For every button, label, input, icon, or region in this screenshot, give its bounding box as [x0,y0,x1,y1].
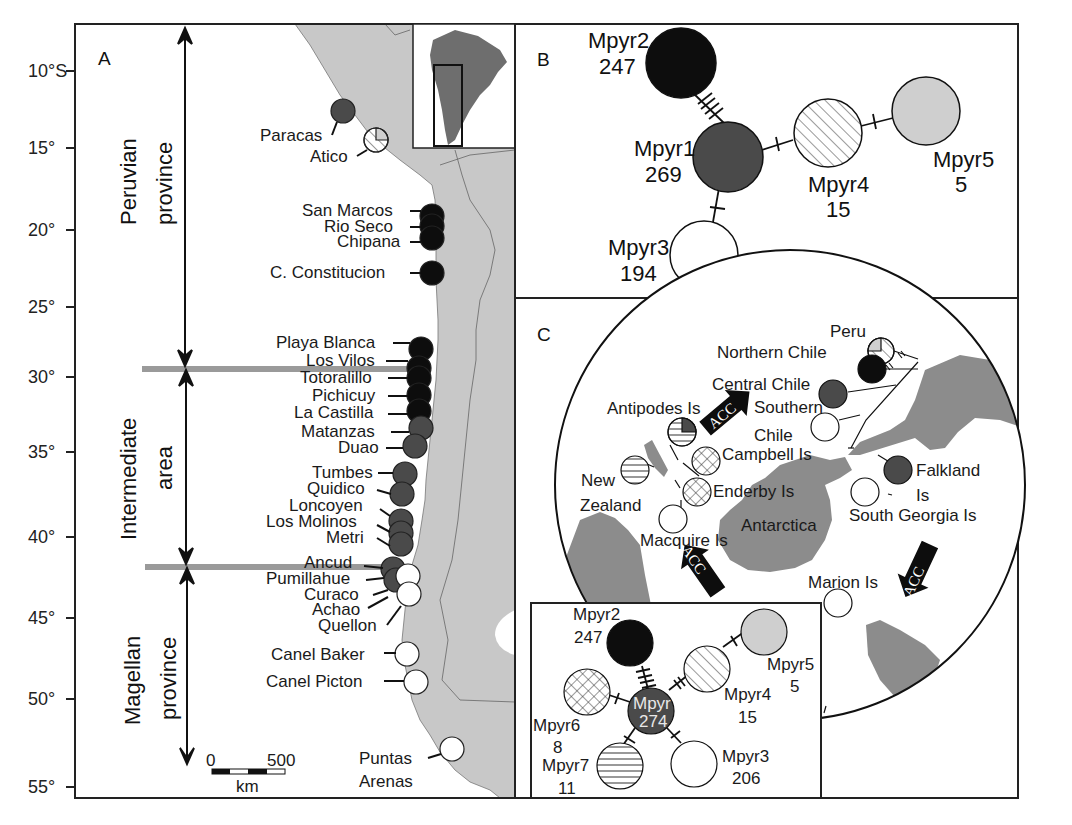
label-falkland-is: Is [916,486,929,505]
inset-mpyr5-name: Mpyr5 [767,655,814,674]
svg-text:Intermediate: Intermediate [116,418,141,540]
mpyr4-name: Mpyr4 [808,172,869,197]
scale-start: 0 [206,751,215,770]
panel-a-label: A [98,48,111,69]
label-new: New [581,471,616,490]
mpyr5-name: Mpyr5 [933,147,994,172]
tick-35: 35° [28,442,55,462]
tick-45: 45° [28,608,55,628]
site-atico: Atico [310,147,348,166]
tick-15: 15° [28,138,55,158]
mpyr5-count: 5 [955,172,967,197]
haplotype-mpyr2-node [646,28,716,98]
mpyr2-name: Mpyr2 [588,28,649,53]
panel-a: A 10°S 15° 20° 25° 30° 35° 40° 45° 50° 5… [28,24,515,798]
region-label-intermediate: Intermediate area [116,418,177,540]
label-northern-chile: Northern Chile [717,343,827,362]
label-campbell: Campbell Is [722,445,812,464]
inset-mpyr6-count: 8 [553,738,562,757]
svg-text:Peruvian: Peruvian [116,138,141,225]
marker-macquire [659,505,687,533]
inset-mpyr5-count: 5 [790,677,799,696]
svg-text:province: province [156,637,181,720]
label-peru: Peru [830,322,866,341]
marker-campbell [692,447,720,475]
site-labels: Paracas Atico San Marcos Rio Seco Chipan… [260,126,413,791]
scale-end: 500 [267,751,295,770]
haplotype-mpyr5-node [892,77,960,145]
site-paracas: Paracas [260,126,322,145]
inset-mpyr3-count: 206 [732,769,760,788]
svg-text:area: area [152,445,177,490]
inset-mpyr2-node [607,620,653,666]
panel-c: C [515,250,1030,798]
inset-mpyr4-name: Mpyr4 [724,685,771,704]
site-arenas: Arenas [359,772,413,791]
marker-new-zealand [621,456,649,484]
inset-mpyr4-count: 15 [738,708,757,727]
label-southern: Southern [754,398,823,417]
haplotype-mpyr1-node [693,122,763,192]
mpyr4-count: 15 [826,197,850,222]
site-quellon: Quellon [318,616,377,635]
tick-55: 55° [28,777,55,797]
tick-20: 20° [28,220,55,240]
site-duao: Duao [338,438,379,457]
inset-mpyr5-node [741,609,787,655]
inset-mpyr7-node [597,743,643,789]
site-canel-baker: Canel Baker [271,645,365,664]
marker-paracas [331,99,355,123]
marker-antipodes [668,418,696,446]
label-marion: Marion Is [808,573,878,592]
marker-northern-chile [858,355,886,383]
haplotype-mpyr4-node [794,99,862,167]
inset-mpyr7-name: Mpyr7 [542,756,589,775]
label-central-chile: Central Chile [712,375,810,394]
tick-40: 40° [28,527,55,547]
marker-enderby [683,478,711,506]
figure-canvas: A 10°S 15° 20° 25° 30° 35° 40° 45° 50° 5… [0,0,1072,825]
site-c-constitucion: C. Constitucion [270,263,385,282]
label-zealand: Zealand [580,496,641,515]
tick-50: 50° [28,689,55,709]
label-falkland: Falkland [916,461,980,480]
svg-text:province: province [152,142,177,225]
region-label-peruvian: Peruvian province [116,138,177,225]
panel-c-label: C [537,324,551,345]
region-label-magellan: Magellan province [120,636,181,725]
site-totoralillo: Totoralillo [300,368,372,387]
marker-falkland [884,456,912,484]
site-puntas: Puntas [359,749,412,768]
site-canel-picton: Canel Picton [266,672,362,691]
svg-text:Magellan: Magellan [120,636,145,725]
site-metri: Metri [326,528,364,547]
inset-mpyr3-node [671,741,717,787]
label-enderby: Enderby Is [713,482,794,501]
mpyr3-name: Mpyr3 [608,235,669,260]
label-chile: Chile [754,426,793,445]
inset-mpyr2-count: 247 [574,628,602,647]
inset-mpyr2-name: Mpyr2 [573,605,620,624]
inset-mpyr6-name: Mpyr6 [533,716,580,735]
inset-network: Mpyr 274 Mpyr2 247 Mpyr3 206 Mpyr4 15 Mp… [531,603,821,798]
inset-mpyr7-count: 11 [558,779,576,798]
inset-south-america [413,24,515,148]
label-south-georgia: South Georgia Is [849,506,977,525]
tick-30: 30° [28,367,55,387]
marker-atico [364,128,388,152]
latitude-axis: 10°S 15° 20° 25° 30° 35° 40° 45° 50° 55° [28,61,75,797]
mpyr2-count: 247 [599,54,636,79]
tick-10s: 10°S [28,61,67,81]
tick-25: 25° [28,297,55,317]
label-antarctica: Antarctica [741,516,817,535]
inset-mpyr1-name: Mpyr [633,694,671,713]
label-macquire: Macquire Is [640,531,728,550]
inset-mpyr6-node [564,669,610,715]
scale-bar: 0 500 km [206,751,295,796]
panel-b-label: B [537,49,550,70]
site-chipana: Chipana [337,232,401,251]
mpyr1-count: 269 [645,162,682,187]
marker-southern-chile [811,413,839,441]
inset-mpyr3-name: Mpyr3 [722,747,769,766]
marker-central-chile [819,380,847,408]
